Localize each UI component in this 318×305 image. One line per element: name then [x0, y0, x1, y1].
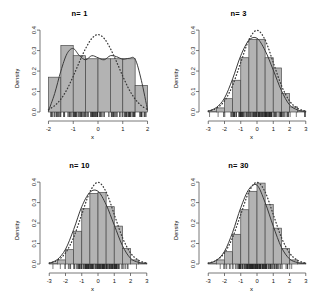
x-tick-label: 1	[272, 278, 275, 284]
x-tick-label: 0	[255, 278, 258, 284]
histogram-bars	[48, 45, 147, 112]
x-tick-label: 3	[304, 278, 307, 284]
x-tick-label: 0	[96, 126, 99, 132]
x-tick-label: 2	[146, 126, 149, 132]
histogram-bars	[208, 183, 306, 264]
y-tick-label: 0.3	[31, 47, 37, 55]
x-axis-label: x	[199, 134, 304, 140]
y-tick-label: 0.3	[31, 199, 37, 207]
rug-marks	[210, 112, 306, 117]
plot-area-n10: 0.00.10.20.30.4-3-2-10123	[0, 152, 159, 305]
x-tick-label: 1	[113, 278, 116, 284]
x-tick-label: -2	[222, 278, 227, 284]
x-tick-label: 2	[129, 278, 132, 284]
plot-area-n30: 0.00.10.20.30.4-3-2-10123	[159, 152, 318, 305]
y-tick-label: 0.4	[31, 26, 37, 34]
x-tick-label: 0	[96, 278, 99, 284]
x-axis-label: x	[40, 134, 145, 140]
y-tick-label: 0.4	[190, 26, 196, 34]
x-axis-label: x	[199, 286, 304, 292]
y-axis-label: Density	[14, 69, 20, 88]
x-tick-label: 1	[121, 126, 124, 132]
x-tick-label: -3	[206, 278, 211, 284]
y-tick-label: 0.3	[190, 199, 196, 207]
y-tick-label: 0.3	[190, 47, 196, 55]
x-tick-label: 0	[255, 126, 258, 132]
y-tick-label: 0.0	[190, 260, 196, 268]
x-tick-label: -1	[79, 278, 84, 284]
y-tick-label: 0.0	[31, 260, 37, 268]
y-tick-label: 0.1	[31, 88, 37, 96]
x-tick-label: -1	[238, 126, 243, 132]
y-tick-label: 0.2	[31, 219, 37, 227]
y-axis-label: Density	[173, 69, 179, 88]
x-tick-label: -3	[206, 126, 211, 132]
y-tick-label: 0.1	[190, 240, 196, 248]
x-tick-label: -1	[238, 278, 243, 284]
x-tick-label: 1	[272, 126, 275, 132]
histogram-grid: n= 1 0.00.10.20.30.4-2-1012 Density x n=…	[0, 0, 318, 305]
y-tick-label: 0.1	[31, 240, 37, 248]
x-tick-label: 2	[288, 278, 291, 284]
panel-n1: n= 1 0.00.10.20.30.4-2-1012 Density x	[0, 0, 159, 152]
y-axis-label: Density	[173, 221, 179, 240]
y-tick-label: 0.2	[190, 67, 196, 75]
x-tick-label: 2	[288, 126, 291, 132]
panel-n10: n= 10 0.00.10.20.30.4-3-2-10123 Density …	[0, 152, 159, 304]
x-tick-label: -2	[222, 126, 227, 132]
x-axis-label: x	[40, 286, 145, 292]
y-tick-label: 0.1	[190, 88, 196, 96]
histogram-bars	[49, 192, 147, 264]
y-tick-label: 0.4	[31, 178, 37, 186]
rug-marks	[53, 264, 137, 269]
x-tick-label: -1	[71, 126, 76, 132]
y-tick-label: 0.0	[190, 108, 196, 116]
x-tick-label: 3	[304, 126, 307, 132]
panel-n3: n= 3 0.00.10.20.30.4-3-2-10123 Density x	[159, 0, 318, 152]
y-axis-label: Density	[14, 221, 20, 240]
x-tick-label: -2	[63, 278, 68, 284]
rug-marks	[220, 264, 291, 269]
panel-n30: n= 30 0.00.10.20.30.4-3-2-10123 Density …	[159, 152, 318, 304]
rug-marks	[51, 112, 146, 117]
y-tick-label: 0.4	[190, 178, 196, 186]
x-tick-label: -3	[47, 278, 52, 284]
x-tick-label: -2	[46, 126, 51, 132]
x-tick-label: 3	[145, 278, 148, 284]
y-tick-label: 0.2	[190, 219, 196, 227]
y-tick-label: 0.2	[31, 67, 37, 75]
y-tick-label: 0.0	[31, 108, 37, 116]
plot-area-n3: 0.00.10.20.30.4-3-2-10123	[159, 0, 318, 152]
plot-area-n1: 0.00.10.20.30.4-2-1012	[0, 0, 159, 152]
